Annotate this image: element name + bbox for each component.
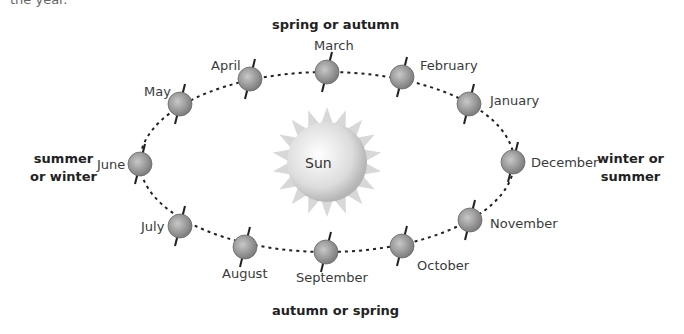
month-label-december: December	[531, 155, 598, 170]
month-label-august: August	[222, 266, 268, 281]
month-label-september: September	[296, 270, 368, 285]
earth-icon-november	[458, 200, 482, 240]
month-label-october: October	[417, 258, 469, 273]
earth-icon-may	[168, 84, 192, 124]
season-label-right: winter or summer	[597, 150, 664, 186]
earth-icon-march	[315, 52, 339, 92]
season-left-line1: summer	[30, 150, 97, 168]
earth-icon-april	[238, 59, 262, 99]
month-label-november: November	[490, 216, 558, 231]
month-label-july: July	[141, 219, 164, 234]
season-label-bottom: autumn or spring	[272, 302, 399, 320]
season-label-left: summer or winter	[30, 150, 97, 186]
season-right-line1: winter or	[597, 150, 664, 168]
month-label-june: June	[97, 157, 125, 172]
month-label-april: April	[211, 58, 241, 73]
earth-icon-december	[501, 142, 525, 182]
season-left-line2: or winter	[30, 168, 97, 186]
month-label-january: January	[490, 93, 539, 108]
month-label-may: May	[144, 84, 171, 99]
earth-icon-september	[314, 232, 338, 272]
sun-label: Sun	[305, 155, 332, 171]
earth-icon-august	[233, 227, 257, 267]
month-label-march: March	[314, 38, 354, 53]
month-label-february: February	[420, 58, 478, 73]
earth-icon-june	[128, 144, 152, 184]
season-right-line2: summer	[597, 168, 664, 186]
season-label-top: spring or autumn	[272, 16, 399, 34]
earth-icon-january	[457, 84, 481, 124]
earth-icon-october	[390, 226, 414, 266]
earth-icon-february	[390, 57, 414, 97]
